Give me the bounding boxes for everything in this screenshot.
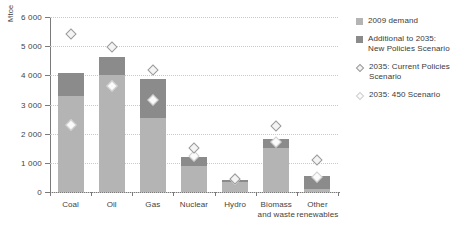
x-axis-tick bbox=[50, 192, 51, 196]
y-axis-tick bbox=[45, 46, 50, 47]
bar-stack bbox=[181, 17, 207, 192]
y-axis-tick-label: 0 bbox=[37, 188, 42, 197]
x-axis-label: Other renewables bbox=[287, 200, 347, 220]
x-axis-tick bbox=[132, 192, 133, 196]
y-axis-tick-label: 1 000 bbox=[21, 158, 42, 167]
y-axis-title: Mtoe bbox=[6, 5, 15, 22]
legend-item[interactable]: Additional to 2035: New Policies Scenari… bbox=[356, 34, 455, 54]
legend-item[interactable]: 2035: 450 Scenario bbox=[356, 90, 455, 100]
y-axis-tick-label: 3 000 bbox=[21, 100, 42, 109]
bar-segment-2009-demand bbox=[140, 118, 166, 192]
bar-stack bbox=[304, 17, 330, 192]
bar-segment-additional-2035 bbox=[58, 73, 84, 96]
x-axis-tick bbox=[338, 192, 339, 196]
y-axis-tick-label: 4 000 bbox=[21, 71, 42, 80]
x-axis-tick bbox=[173, 192, 174, 196]
bar-segment-additional-2035 bbox=[99, 57, 125, 75]
bar-segment-2009-demand bbox=[58, 96, 84, 192]
bar-group bbox=[58, 17, 84, 192]
y-axis-tick bbox=[45, 105, 50, 106]
chart-figure: Mtoe 01 0002 0003 0004 0005 0006 000Coal… bbox=[0, 0, 455, 237]
legend-label: Additional to 2035: New Policies Scenari… bbox=[368, 34, 450, 54]
y-axis-tick bbox=[45, 134, 50, 135]
y-axis-tick bbox=[45, 17, 50, 18]
legend-marker-450-scenario bbox=[356, 92, 364, 100]
legend-item[interactable]: 2009 demand bbox=[356, 16, 455, 26]
bar-segment-2009-demand bbox=[99, 75, 125, 192]
bar-stack bbox=[263, 17, 289, 192]
y-axis-tick bbox=[45, 75, 50, 76]
bar-segment-2009-demand bbox=[263, 148, 289, 192]
legend-marker-current-policies bbox=[356, 64, 364, 72]
bar-group bbox=[304, 17, 330, 192]
bar-segment-2009-demand bbox=[304, 189, 330, 193]
bar-stack bbox=[58, 17, 84, 192]
plot-area: 01 0002 0003 0004 0005 0006 000CoalOilGa… bbox=[50, 17, 338, 192]
x-axis-tick bbox=[297, 192, 298, 196]
x-axis-tick bbox=[215, 192, 216, 196]
y-axis-tick-label: 5 000 bbox=[21, 42, 42, 51]
legend-swatch-additional-2035 bbox=[356, 36, 363, 43]
y-axis-tick-label: 6 000 bbox=[21, 13, 42, 22]
x-axis-tick bbox=[256, 192, 257, 196]
x-axis-tick bbox=[91, 192, 92, 196]
legend-item[interactable]: 2035: Current Policies Scenario bbox=[356, 62, 455, 82]
bar-group bbox=[181, 17, 207, 192]
bar-group bbox=[222, 17, 248, 192]
y-axis-tick bbox=[45, 163, 50, 164]
bar-group bbox=[263, 17, 289, 192]
legend-swatch-2009-demand bbox=[356, 18, 363, 25]
bar-stack bbox=[222, 17, 248, 192]
legend-label: 2035: Current Policies Scenario bbox=[369, 62, 450, 82]
legend-label: 2009 demand bbox=[368, 16, 418, 26]
chart-legend: 2009 demandAdditional to 2035: New Polic… bbox=[356, 16, 455, 108]
bar-segment-2009-demand bbox=[181, 166, 207, 192]
legend-label: 2035: 450 Scenario bbox=[369, 90, 440, 100]
gridline bbox=[50, 192, 338, 193]
y-axis-tick-label: 2 000 bbox=[21, 129, 42, 138]
